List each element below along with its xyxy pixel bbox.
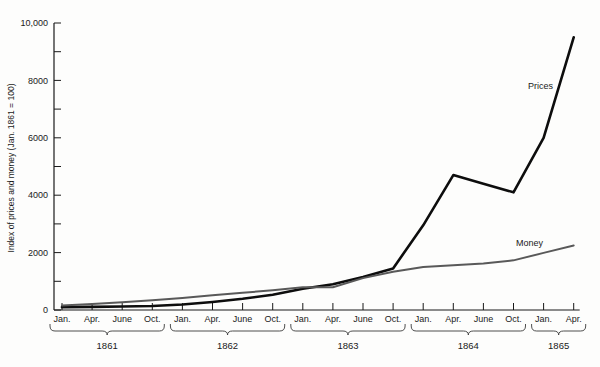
x-tick-label: June (233, 314, 253, 324)
x-tick-label: Jan. (53, 314, 70, 324)
y-tick-label: 8000 (28, 76, 48, 86)
year-label: 1865 (548, 340, 569, 351)
year-bracket (411, 324, 525, 335)
y-tick-label: 0 (43, 305, 48, 315)
chart-container: 0200040006000800010,000 Jan.Apr.JuneOct.… (0, 0, 600, 367)
x-tick-label: Oct. (144, 314, 161, 324)
x-tick-label: Jan. (174, 314, 191, 324)
year-bracket (170, 324, 284, 335)
y-tick-label: 6000 (28, 133, 48, 143)
x-tick-label: Oct. (385, 314, 402, 324)
x-tick-label: Oct. (505, 314, 522, 324)
x-tick-label: June (112, 314, 132, 324)
year-label: 1863 (337, 340, 358, 351)
x-tick-label: Jan. (535, 314, 552, 324)
series-line-prices (62, 37, 574, 307)
year-bracket (532, 324, 586, 335)
y-axis-title: Index of prices and money (Jan. 1861 = 1… (6, 83, 16, 252)
series-annotation-prices: Prices (528, 81, 554, 91)
year-label: 1864 (458, 340, 479, 351)
series-line-money (62, 245, 574, 305)
y-axis: 0200040006000800010,000 (20, 18, 61, 315)
series-lines (62, 37, 574, 307)
x-tick-label: Apr. (325, 314, 341, 324)
series-annotations: PricesMoney (516, 81, 554, 248)
y-axis-title-text: Index of prices and money (Jan. 1861 = 1… (6, 83, 16, 252)
x-tick-label: Apr. (204, 314, 220, 324)
year-bracket (291, 324, 405, 335)
year-label: 1862 (217, 340, 238, 351)
x-tick-label: Apr. (566, 314, 582, 324)
series-annotation-money: Money (516, 238, 544, 248)
x-tick-label: June (353, 314, 373, 324)
y-tick-label: 10,000 (20, 18, 48, 28)
year-bracket (50, 324, 164, 335)
x-tick-label: Jan. (294, 314, 311, 324)
line-chart: 0200040006000800010,000 Jan.Apr.JuneOct.… (0, 0, 600, 367)
x-tick-label: Oct. (264, 314, 281, 324)
year-brackets: 18611862186318641865 (50, 324, 586, 351)
y-tick-label: 2000 (28, 248, 48, 258)
year-label: 1861 (97, 340, 118, 351)
x-tick-label: Apr. (84, 314, 100, 324)
y-tick-label: 4000 (28, 190, 48, 200)
x-tick-label: Jan. (415, 314, 432, 324)
x-tick-label: Apr. (445, 314, 461, 324)
x-tick-label: June (474, 314, 494, 324)
